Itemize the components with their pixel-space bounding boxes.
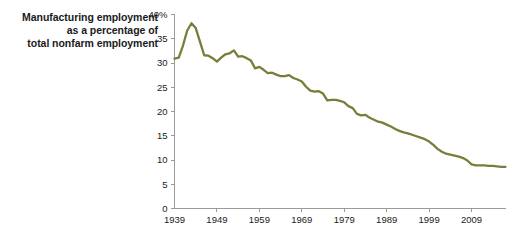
chart-svg: 0510152025303540% 1939194919591969197919… bbox=[0, 0, 522, 240]
series-line bbox=[175, 23, 506, 167]
x-tick-label: 1999 bbox=[419, 214, 440, 225]
y-tick-label: 0 bbox=[162, 203, 167, 214]
x-tick-label: 1989 bbox=[376, 214, 397, 225]
line-chart: 0510152025303540% 1939194919591969197919… bbox=[0, 0, 522, 240]
x-tick-label: 1939 bbox=[164, 214, 185, 225]
x-tick-label: 1979 bbox=[334, 214, 355, 225]
y-tick-label: 15 bbox=[157, 130, 168, 141]
x-tick-label: 2009 bbox=[461, 214, 482, 225]
y-tick-label: 20 bbox=[157, 106, 168, 117]
x-tick-label: 1959 bbox=[249, 214, 270, 225]
y-tick-label: 35 bbox=[157, 33, 168, 44]
x-axis: 19391949195919691979198919992009 bbox=[164, 209, 506, 225]
y-tick-label: 25 bbox=[157, 82, 168, 93]
y-tick-label: 5 bbox=[162, 179, 167, 190]
data-series bbox=[175, 23, 506, 167]
y-axis: 0510152025303540% bbox=[148, 9, 174, 214]
x-tick-label: 1969 bbox=[291, 214, 312, 225]
y-tick-label: 10 bbox=[157, 154, 168, 165]
x-tick-label: 1949 bbox=[206, 214, 227, 225]
y-tick-label: 30 bbox=[157, 57, 168, 68]
chart-page: Manufacturing employment as a percentage… bbox=[0, 0, 522, 240]
y-tick-label: 40% bbox=[148, 9, 168, 20]
